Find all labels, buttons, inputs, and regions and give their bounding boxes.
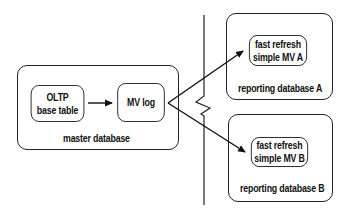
reporting-database-b-label: reporting database B — [240, 183, 325, 194]
reporting-database-a-label: reporting database A — [238, 83, 322, 94]
mv-b-line1: fast refresh — [254, 139, 304, 152]
mv-b-node: fast refresh simple MV B — [251, 137, 308, 167]
oltp-line1: OLTP — [37, 91, 78, 104]
mv-a-node: fast refresh simple MV A — [249, 35, 307, 66]
oltp-base-table-node: OLTP base table — [31, 85, 85, 122]
mv-b-line2: simple MV B — [254, 152, 304, 165]
oltp-line2: base table — [37, 104, 78, 117]
mv-a-line2: simple MV A — [253, 51, 303, 64]
master-database-label: master database — [63, 133, 130, 144]
network-divider — [196, 15, 210, 205]
mv-log-node: MV log — [117, 83, 165, 122]
mv-a-line1: fast refresh — [253, 38, 303, 51]
mv-log-label: MV log — [127, 96, 155, 109]
